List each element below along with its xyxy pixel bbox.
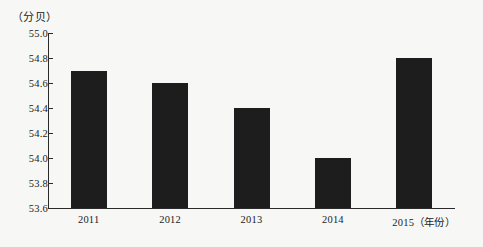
bar bbox=[315, 158, 351, 208]
x-axis-label: 2013 bbox=[212, 214, 292, 225]
y-axis-tick-label: 53.8 bbox=[4, 178, 48, 189]
y-axis-tick-label: 54.4 bbox=[4, 103, 48, 114]
bar bbox=[71, 71, 107, 209]
x-axis-label: 2012 bbox=[130, 214, 210, 225]
y-axis-tick-label: 53.6 bbox=[4, 203, 48, 214]
y-axis-tick-label: 54.8 bbox=[4, 53, 48, 64]
y-axis-tick bbox=[48, 208, 53, 209]
y-axis-unit-label: （分贝） bbox=[12, 8, 58, 24]
y-axis-tick-label: 54.0 bbox=[4, 153, 48, 164]
bars-layer bbox=[48, 33, 455, 208]
y-axis-tick-label: 54.6 bbox=[4, 78, 48, 89]
x-axis-label-with-unit: 2015（年份） bbox=[392, 214, 455, 229]
x-axis-label: 2011 bbox=[49, 214, 129, 225]
bar bbox=[234, 108, 270, 208]
y-axis-tick-label: 55.0 bbox=[4, 28, 48, 39]
bar-chart: （分贝） 55.054.854.654.454.254.053.853.6 20… bbox=[0, 0, 483, 247]
x-axis-label: 2014 bbox=[293, 214, 373, 225]
x-axis-line bbox=[48, 208, 455, 209]
y-axis-tick-label: 54.2 bbox=[4, 128, 48, 139]
bar bbox=[152, 83, 188, 208]
bar bbox=[396, 58, 432, 208]
